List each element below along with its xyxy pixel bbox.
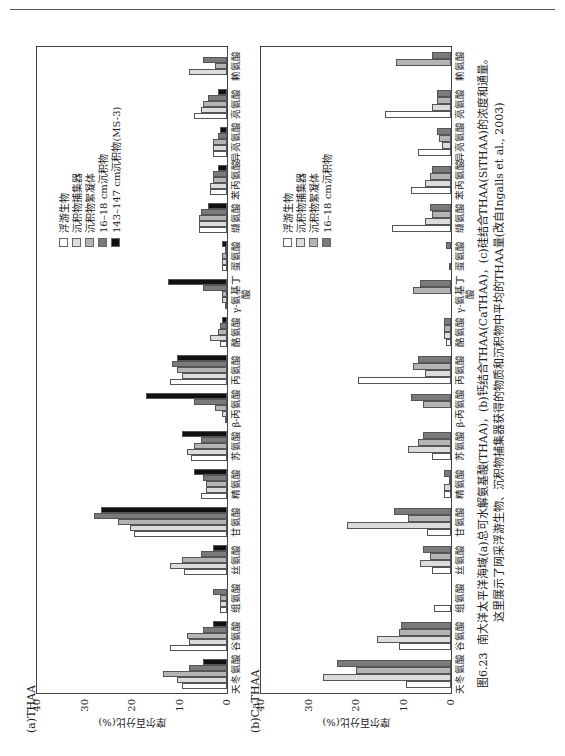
- bar-group: [37, 507, 227, 537]
- category-label: 赖氨酸: [455, 46, 465, 86]
- bar: [399, 629, 451, 636]
- bar: [425, 180, 451, 187]
- category-label: 苏氨酸: [455, 426, 465, 466]
- category-label: 苏氨酸: [231, 426, 241, 466]
- bar: [194, 443, 227, 449]
- chart-b-legend: 浮游生物沉积物捕集器沉积物絮凝体16–18 cm沉积物: [281, 154, 333, 247]
- bar-group: [261, 660, 451, 688]
- bar: [425, 218, 451, 225]
- bar-group: [261, 508, 451, 536]
- bar: [189, 69, 227, 75]
- bar-group: [37, 393, 227, 423]
- bar: [189, 639, 227, 645]
- page-top-rule: [10, 9, 555, 10]
- chart-a-panel: (a)THAA 摩尔百分比(%) 浮游生物沉积物捕集器沉积物絮凝体16–18 c…: [24, 38, 234, 738]
- category-label: 组氨酸: [455, 578, 465, 618]
- category-label: 甘氨酸: [231, 502, 241, 542]
- bar: [220, 595, 227, 601]
- bar-group: [37, 355, 227, 385]
- category-label: 谷氨酸: [231, 616, 241, 656]
- bar: [146, 393, 227, 399]
- bar: [323, 674, 451, 681]
- bar: [396, 59, 451, 66]
- bar: [411, 187, 451, 194]
- bar: [439, 135, 451, 142]
- chart-a-ylabel: 摩尔百分比(%): [98, 716, 165, 731]
- bar: [430, 173, 451, 180]
- legend-swatch: [72, 238, 81, 247]
- bar: [437, 97, 451, 104]
- bar-group: [261, 432, 451, 460]
- category-label: 缬氨酸: [455, 198, 465, 238]
- bar-group: [37, 621, 227, 651]
- bar: [163, 671, 227, 677]
- legend-swatch: [85, 238, 94, 247]
- bar: [222, 259, 227, 265]
- figure-label: 图6.23: [477, 653, 490, 689]
- bar-group: [37, 317, 227, 347]
- category-label: 丝氨酸: [455, 540, 465, 580]
- bar: [449, 263, 451, 270]
- bar: [187, 633, 227, 639]
- bar: [401, 622, 451, 629]
- category-label: 苯丙氨酸: [455, 160, 465, 200]
- bar: [177, 355, 227, 361]
- bar: [446, 242, 451, 249]
- bar: [337, 660, 451, 667]
- bar: [194, 399, 227, 405]
- bar: [408, 515, 451, 522]
- legend-swatch: [296, 238, 305, 247]
- caption-line-2: 这里展示了网采浮游生物、沉积物捕集器获得的物质和沉积物中平均的THAA量(改自I…: [492, 48, 508, 688]
- bar-group: [261, 584, 451, 612]
- bar: [177, 367, 227, 373]
- bar: [222, 241, 227, 247]
- bar: [206, 487, 227, 493]
- y-tick-label: 40: [31, 699, 42, 715]
- bar: [201, 107, 227, 113]
- category-label: 谷氨酸: [455, 616, 465, 656]
- category-label: 丙氨酸: [231, 350, 241, 390]
- bar: [411, 394, 451, 401]
- bar: [213, 171, 227, 177]
- bar: [187, 449, 227, 455]
- bar: [220, 607, 227, 613]
- bar-group: [261, 622, 451, 650]
- bar: [437, 128, 451, 135]
- bar: [101, 507, 227, 513]
- bar: [222, 291, 227, 297]
- category-label: 缬氨酸: [231, 198, 241, 238]
- bar-group: [261, 470, 451, 498]
- bar: [444, 491, 451, 498]
- bar: [220, 127, 227, 133]
- legend-swatch: [322, 238, 331, 247]
- bar: [408, 446, 451, 453]
- category-label: 甘氨酸: [455, 502, 465, 542]
- bar: [203, 627, 227, 633]
- bar: [406, 681, 451, 688]
- bar: [218, 133, 228, 139]
- category-label: 亮氨酸: [455, 84, 465, 124]
- bar: [203, 101, 227, 107]
- bar: [194, 113, 227, 119]
- bar-group: [37, 279, 227, 309]
- bar: [220, 323, 227, 329]
- category-label: 精氨酸: [455, 464, 465, 504]
- bar: [213, 545, 227, 551]
- category-label: 赖氨酸: [231, 46, 241, 86]
- bar: [427, 529, 451, 536]
- bar: [392, 225, 451, 232]
- category-label: 异亮氨酸: [231, 122, 241, 162]
- category-label: 精氨酸: [231, 464, 241, 504]
- category-label: β-丙氨酸: [455, 388, 465, 428]
- bar: [201, 551, 227, 557]
- y-tick-label: 40: [255, 699, 266, 715]
- bar: [423, 401, 452, 408]
- bar: [218, 329, 228, 335]
- chart-a-plot: (a)THAA 摩尔百分比(%) 浮游生物沉积物捕集器沉积物絮凝体16–18 c…: [36, 46, 228, 694]
- chart-b-ylabel: 摩尔百分比(%): [322, 716, 389, 731]
- bar: [220, 601, 227, 607]
- bar: [225, 417, 227, 423]
- legend-label: 143–147 cm沉积物(MS-3): [108, 107, 123, 233]
- bar: [222, 317, 227, 323]
- bar: [444, 470, 451, 477]
